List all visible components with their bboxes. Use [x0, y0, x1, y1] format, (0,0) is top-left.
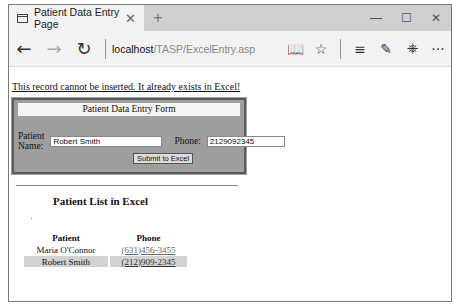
phone-cell: (631)456-3455 — [110, 244, 187, 255]
patient-table: Patient Phone Maria O'Connor (631)456-34… — [22, 231, 189, 268]
patient-name-input[interactable] — [50, 136, 162, 147]
hub-icon[interactable]: ≡ — [347, 34, 373, 64]
forward-button[interactable]: → — [39, 34, 69, 64]
navigation-bar: ← → ↻ localhost/TASP/ExcelEntry.asp 📖 ☆ … — [9, 31, 451, 67]
phone-link[interactable]: (212)909-2345 — [122, 257, 176, 267]
favorites-star-icon[interactable]: ☆ — [308, 34, 334, 64]
window-controls: — ☐ ✕ — [361, 5, 451, 31]
stray-dot — [31, 218, 32, 219]
phone-label: Phone: — [174, 136, 200, 146]
url-host: localhost — [112, 43, 153, 55]
tab-page-icon — [17, 14, 28, 23]
tab-patient-data-entry[interactable]: Patient Data Entry Page ✕ — [9, 5, 144, 31]
divider — [16, 185, 238, 186]
separator — [105, 39, 106, 59]
patient-name-cell: Maria O'Connor — [24, 244, 108, 255]
form-fields-row: Patient Name: Phone: — [18, 131, 285, 151]
back-button[interactable]: ← — [9, 34, 39, 64]
refresh-button[interactable]: ↻ — [69, 34, 99, 64]
page-content: This record cannot be inserted. It alrea… — [9, 68, 451, 301]
column-header-patient: Patient — [24, 232, 108, 243]
submit-to-excel-button[interactable]: Submit to Excel — [133, 153, 193, 164]
phone-input[interactable] — [207, 136, 285, 147]
more-options-icon[interactable]: ··· — [425, 34, 451, 64]
error-message: This record cannot be inserted. It alrea… — [12, 81, 240, 92]
minimize-button[interactable]: — — [361, 5, 391, 31]
title-bar: Patient Data Entry Page ✕ + — ☐ ✕ — [9, 5, 451, 31]
patient-name-cell: Robert Smith — [24, 256, 108, 267]
patient-name-label: Patient Name: — [18, 131, 44, 151]
column-header-phone: Phone — [110, 232, 187, 243]
new-tab-button[interactable]: + — [144, 5, 172, 31]
share-icon[interactable]: ⎈ — [399, 34, 425, 64]
form-title: Patient Data Entry Form — [18, 103, 240, 116]
reading-view-icon[interactable]: 📖 — [282, 34, 308, 64]
maximize-button[interactable]: ☐ — [391, 5, 421, 31]
phone-cell: (212)909-2345 — [110, 256, 187, 267]
table-row: Maria O'Connor (631)456-3455 — [24, 244, 187, 255]
tab-title: Patient Data Entry Page — [34, 6, 125, 30]
browser-window: Patient Data Entry Page ✕ + — ☐ ✕ ← → ↻ … — [8, 4, 452, 302]
web-note-icon[interactable]: ✎ — [373, 34, 399, 64]
table-row: Robert Smith (212)909-2345 — [24, 256, 187, 267]
url-path: /TASP/ExcelEntry.asp — [153, 43, 255, 55]
phone-link[interactable]: (631)456-3455 — [122, 245, 176, 255]
separator — [340, 39, 341, 59]
patient-entry-form: Patient Data Entry Form Patient Name: Ph… — [12, 98, 246, 174]
address-bar[interactable]: localhost/TASP/ExcelEntry.asp — [112, 43, 282, 55]
patient-list-title: Patient List in Excel — [53, 195, 148, 207]
table-header-row: Patient Phone — [24, 232, 187, 243]
close-window-button[interactable]: ✕ — [421, 5, 451, 31]
tab-close-icon[interactable]: ✕ — [125, 11, 136, 26]
